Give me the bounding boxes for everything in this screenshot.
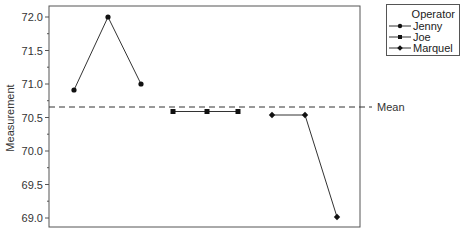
circle-marker-icon — [389, 21, 413, 31]
svg-text:70.5: 70.5 — [22, 112, 43, 124]
svg-text:71.0: 71.0 — [22, 78, 43, 90]
svg-text:70.0: 70.0 — [22, 145, 43, 157]
svg-text:69.0: 69.0 — [22, 212, 43, 224]
svg-text:71.5: 71.5 — [22, 45, 43, 57]
legend-item-marquel: Marquel — [387, 42, 459, 54]
square-marker-icon — [389, 32, 413, 42]
diamond-marker-icon — [389, 43, 413, 53]
plot-frame — [49, 6, 360, 227]
mean-label: Mean — [377, 101, 405, 113]
svg-text:69.5: 69.5 — [22, 179, 43, 191]
series-marquel — [269, 112, 340, 220]
svg-text:72.0: 72.0 — [22, 11, 43, 23]
y-ticks — [45, 17, 49, 218]
y-axis-label: Measurement — [4, 84, 16, 151]
legend-title: Operator — [412, 8, 455, 20]
y-tick-labels: 72.0 71.5 71.0 70.5 70.0 69.5 69.0 — [22, 11, 43, 224]
series-jenny — [71, 14, 143, 92]
legend: Operator Jenny Joe Marquel — [386, 4, 460, 56]
series-joe — [171, 109, 241, 114]
